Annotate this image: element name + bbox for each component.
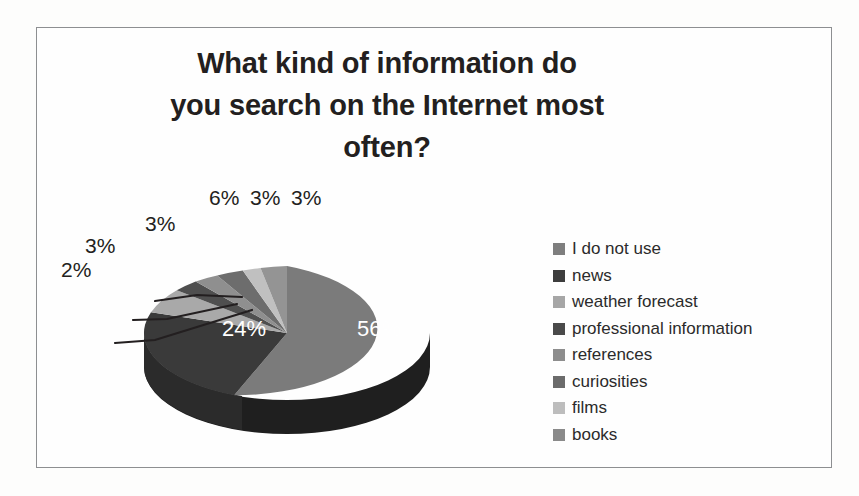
legend-item-curiosities[interactable]: curiosities [553,369,828,396]
chart-title-line-3: often? [77,126,697,168]
legend-item-label: I do not use [572,239,661,259]
legend-item-i-do-not-use[interactable]: I do not use [553,236,828,263]
legend-swatch-icon [553,429,565,441]
chart-title: What kind of information do you search o… [77,42,697,168]
legend-item-label: books [572,425,617,445]
legend-item-label: films [572,398,607,418]
legend-swatch-icon [553,296,565,308]
pie-label-3-percent-e: 3% [85,234,115,258]
pie-label-6-percent: 6% [209,186,239,210]
pie-label-3-percent-c: 3% [291,186,321,210]
pie-value-56-percent: 56% [357,316,401,342]
legend-item-label: professional information [572,319,752,339]
pie-label-3-percent-b: 3% [250,186,280,210]
legend-swatch-icon [553,349,565,361]
pie-label-3-percent-d: 3% [145,212,175,236]
legend-swatch-icon [553,402,565,414]
legend-item-books[interactable]: books [553,422,828,449]
legend-item-label: weather forecast [572,292,698,312]
pie-label-2-percent: 2% [61,258,91,282]
chart-title-line-2: you search on the Internet most [77,84,697,126]
legend-item-weather-forecast[interactable]: weather forecast [553,289,828,316]
chart-title-line-1: What kind of information do [77,42,697,84]
legend-item-films[interactable]: films [553,395,828,422]
legend-item-label: references [572,345,652,365]
legend-swatch-icon [553,270,565,282]
legend-item-news[interactable]: news [553,263,828,290]
legend-item-label: curiosities [572,372,648,392]
chart-frame: What kind of information do you search o… [36,27,832,468]
legend-swatch-icon [553,243,565,255]
legend-item-professional-information[interactable]: professional information [553,316,828,343]
pie-value-24-percent: 24% [222,316,266,342]
pie-plot-area: 6% 3% 3% 3% 3% 2% 24% 56% [37,198,557,468]
legend-swatch-icon [553,376,565,388]
legend-item-references[interactable]: references [553,342,828,369]
legend-swatch-icon [553,323,565,335]
legend-item-label: news [572,266,612,286]
chart-legend: I do not use news weather forecast profe… [553,236,828,448]
